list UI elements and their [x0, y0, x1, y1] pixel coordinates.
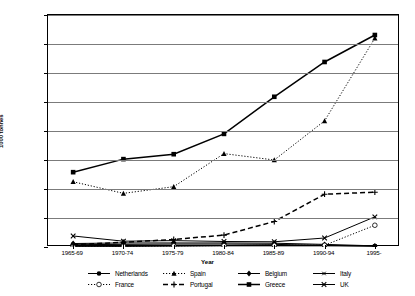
x-axis-title: Year [0, 258, 415, 265]
y-tick [44, 160, 48, 161]
legend-item-uk[interactable]: UK [311, 279, 386, 290]
gridline [48, 189, 398, 190]
x-tick-label: 1970-74 [112, 249, 133, 256]
legend-item-italy[interactable]: Italy [311, 268, 386, 279]
y-tick [44, 189, 48, 190]
x-tick-label: 1975-79 [162, 249, 183, 256]
y-tick [44, 44, 48, 45]
legend-item-portugal[interactable]: Portugal [161, 279, 236, 290]
x-tick-label: 1980-84 [212, 249, 233, 256]
legend-label: Greece [265, 280, 285, 289]
plot-area: 0100200300400500600700800 [47, 14, 399, 246]
legend-marker-filled-circle-icon [86, 269, 112, 278]
gridline [48, 73, 398, 74]
line-chart: 1000 tonnes 0100200300400500600700800 Ye… [0, 0, 415, 296]
legend-marker-plus-icon [161, 280, 187, 289]
legend-label: Portugal [190, 280, 213, 289]
gridline [48, 218, 398, 219]
gridline [48, 102, 398, 103]
y-axis-title: 1000 tonnes [0, 114, 4, 148]
legend-label: Italy [340, 269, 351, 278]
legend-label: Spain [190, 269, 206, 278]
legend-marker-asterisk-icon [311, 269, 337, 278]
y-tick [44, 247, 48, 248]
chart-legend: NetherlandsSpainBelgiumItalyFrancePortug… [86, 268, 386, 290]
y-tick [44, 15, 48, 16]
x-tick-label: 1995- [366, 249, 381, 256]
y-tick [44, 218, 48, 219]
x-tick-label: 1985-89 [263, 249, 284, 256]
gridline [48, 160, 398, 161]
series-spain [71, 36, 378, 196]
legend-label: Netherlands [115, 269, 148, 278]
legend-marker-open-circle-icon [86, 280, 112, 289]
legend-item-belgium[interactable]: Belgium [236, 268, 311, 279]
y-tick [44, 102, 48, 103]
gridline [48, 44, 398, 45]
legend-marker-filled-triangle-icon [161, 269, 187, 278]
gridline [48, 15, 398, 16]
y-tick [44, 73, 48, 74]
legend-label: France [115, 280, 134, 289]
legend-label: UK [340, 280, 349, 289]
x-tick-label: 1990-94 [313, 249, 334, 256]
y-tick [44, 131, 48, 132]
legend-marker-filled-square-icon [236, 280, 262, 289]
legend-label: Belgium [265, 269, 287, 278]
legend-marker-cross-icon [311, 280, 337, 289]
legend-item-france[interactable]: France [86, 279, 161, 290]
legend-item-netherlands[interactable]: Netherlands [86, 268, 161, 279]
gridline [48, 131, 398, 132]
legend-item-greece[interactable]: Greece [236, 279, 311, 290]
x-tick-label: 1965-69 [61, 249, 82, 256]
legend-item-spain[interactable]: Spain [161, 268, 236, 279]
legend-marker-filled-diamond-icon [236, 269, 262, 278]
